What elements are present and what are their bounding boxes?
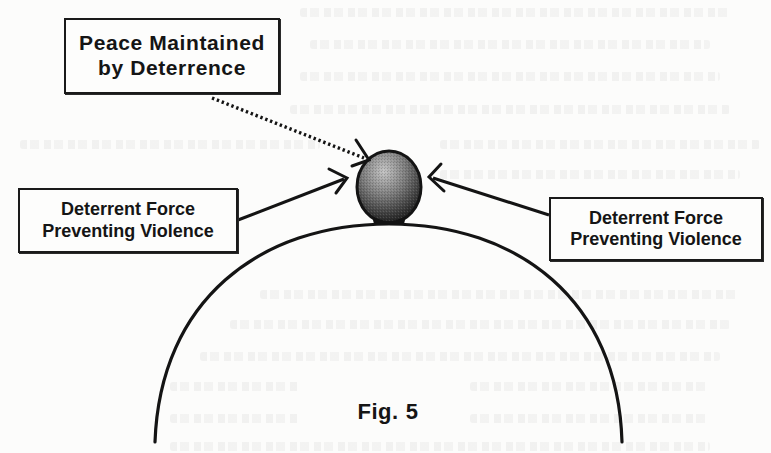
left-deterrent-force-box: Deterrent Force Preventing Violence (18, 188, 238, 253)
right-arrow-icon (429, 164, 549, 215)
left-box-line2: Preventing Violence (42, 221, 214, 242)
left-box-line1: Deterrent Force (61, 199, 195, 220)
figure-caption-label: Fig. (358, 399, 399, 424)
figure-caption-number: 5 (406, 399, 419, 424)
peace-box-line2: by Deterrence (98, 56, 246, 81)
figure-page: Peace Maintained by Deterrence Deterrent… (0, 0, 771, 453)
right-box-line1: Deterrent Force (589, 208, 723, 229)
dotted-arrow-icon (212, 98, 369, 166)
peace-box-line1: Peace Maintained (79, 31, 265, 56)
left-arrow-icon (238, 169, 347, 220)
right-deterrent-force-box: Deterrent Force Preventing Violence (549, 197, 763, 261)
figure-caption: Fig.5 (338, 399, 438, 425)
peace-maintained-box: Peace Maintained by Deterrence (64, 18, 280, 94)
right-box-line2: Preventing Violence (570, 229, 742, 250)
